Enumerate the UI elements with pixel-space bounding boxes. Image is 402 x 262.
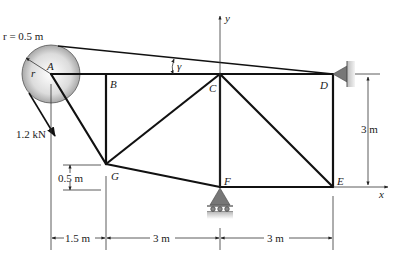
node-g-label: G (111, 170, 119, 182)
pin-support-d (333, 61, 355, 87)
gamma-label: γ (177, 60, 182, 72)
y-axis-label: y (224, 12, 230, 24)
load-label: 1.2 kN (16, 128, 46, 140)
x-axis-label: x (378, 188, 384, 200)
cable-to-d (58, 46, 333, 74)
node-f-label: F (223, 175, 231, 187)
node-e-label: E (336, 175, 344, 187)
gamma-angle-arc (172, 59, 174, 74)
dim-label-2: 3 m (153, 232, 170, 244)
height-dim-label: 3 m (361, 123, 378, 135)
node-a-label: A (46, 60, 54, 72)
truss-members (51, 74, 333, 187)
node-b-label: B (110, 78, 117, 90)
roller-support-f (207, 188, 233, 219)
pulley-radius-label: r = 0.5 m (3, 30, 44, 42)
node-c-label: C (209, 82, 217, 94)
dim-label-3: 3 m (267, 232, 284, 244)
truss-diagram: r = 0.5 m r A B C D E F G γ 1.2 kN y x 3… (0, 0, 402, 262)
node-d-label: D (319, 79, 328, 91)
dim-label-1: 1.5 m (65, 232, 91, 244)
radius-symbol: r (31, 67, 36, 79)
g-offset-label: 0.5 m (58, 172, 84, 184)
